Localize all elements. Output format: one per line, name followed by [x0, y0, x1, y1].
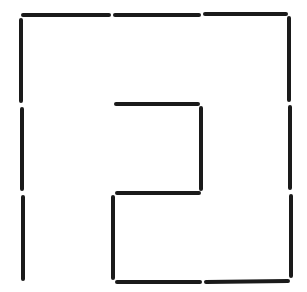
- matchstick-diagram: [0, 0, 307, 292]
- matchstick-bottom-2: [206, 281, 288, 282]
